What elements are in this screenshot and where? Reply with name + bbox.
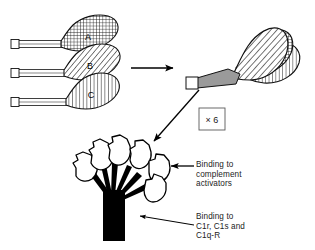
multiplier-label: × 6 [206, 115, 219, 125]
bouquet-head [130, 140, 151, 169]
chain-c-label: C [88, 90, 95, 100]
chain-c-tail [11, 98, 68, 107]
bouquet-head [108, 135, 131, 165]
oligomerization-arrow [154, 90, 199, 141]
chain-a-n-terminus [11, 40, 19, 49]
c1r-c1s-arrow [140, 216, 194, 225]
monomer-stalk [197, 69, 240, 88]
diagram-canvas: A B C [0, 0, 315, 250]
chain-b-label: B [87, 61, 93, 71]
c1q-bouquet [73, 135, 170, 241]
bouquet-trunk [103, 190, 125, 241]
bouquet-head [144, 174, 166, 202]
chain-b-n-terminus [11, 69, 19, 78]
chain-c: C [11, 73, 119, 109]
c1q-monomer [186, 28, 300, 89]
multiplier-box: × 6 [199, 108, 225, 130]
chain-b-tail [11, 69, 66, 78]
annotation-complement-activators: Binding to complement activators [196, 160, 242, 189]
c1q-assembly-figure: A B C [0, 0, 315, 250]
chain-a-label: A [85, 32, 91, 42]
chain-c-n-terminus [11, 98, 19, 107]
monomer-n-terminus [186, 77, 198, 89]
annotation-c1r-c1s-c1qr: Binding to C1r, C1s and C1q-R [196, 212, 245, 241]
chain-a-tail [11, 40, 63, 49]
